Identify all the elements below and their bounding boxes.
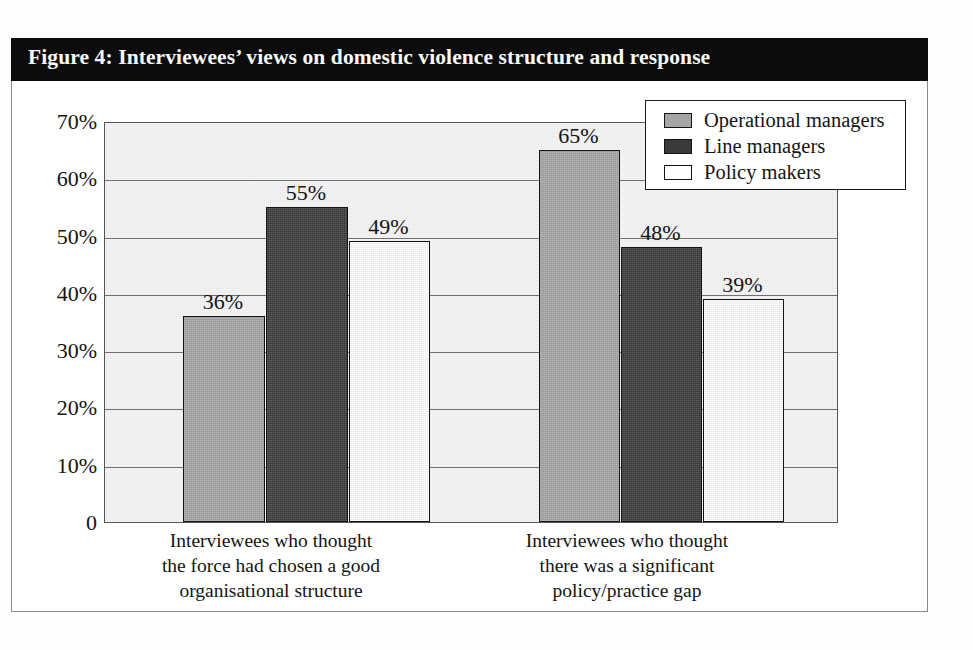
legend-item-label: Operational managers [704,110,884,131]
legend-item: Line managers [646,133,905,159]
y-axis-tick-label: 0 [19,512,97,534]
bar-value-label: 65% [526,125,631,147]
legend-swatch-icon [664,139,692,154]
legend-item-label: Line managers [704,136,825,157]
y-axis-tick-label: 10% [19,455,97,477]
y-axis: 70%60%50%40%30%20%10%0 [11,122,97,523]
bar-scan-texture [267,208,347,521]
chart-legend: Operational managersLine managersPolicy … [645,100,906,190]
x-axis-category-label-line: policy/practice gap [477,579,777,604]
legend-item: Operational managers [646,107,905,133]
bar [183,316,265,522]
bar-scan-texture [350,242,429,521]
bar-value-label: 39% [690,274,795,296]
x-axis-category-label-line: Interviewees who thought [477,529,777,554]
bar-value-label: 48% [608,222,713,244]
gridline [105,238,837,239]
legend-item: Policy makers [646,159,905,185]
y-axis-tick-label: 40% [19,283,97,305]
bar-value-label: 36% [170,291,276,313]
x-axis-category-label: Interviewees who thoughtthere was a sign… [477,529,777,604]
bar-scan-texture [704,300,783,521]
figure-title: Figure 4: Interviewees’ views on domesti… [28,45,710,70]
x-axis-category-label-line: organisational structure [121,579,421,604]
bar-value-label: 55% [253,182,359,204]
bar [349,241,430,522]
bar [539,150,620,522]
legend-swatch-icon [664,113,692,128]
bar [703,299,784,522]
figure-title-banner: Figure 4: Interviewees’ views on domesti… [11,38,928,81]
y-axis-tick-label: 50% [19,226,97,248]
bar-scan-texture [184,317,264,521]
y-axis-tick-label: 70% [19,111,97,133]
bar-scan-texture [540,151,619,521]
legend-swatch-icon [664,165,692,180]
y-axis-tick-label: 20% [19,397,97,419]
legend-item-label: Policy makers [704,162,821,183]
bar-value-label: 49% [336,216,441,238]
y-axis-tick-label: 60% [19,168,97,190]
y-axis-tick-label: 30% [19,340,97,362]
x-axis-category-label-line: the force had chosen a good [121,554,421,579]
x-axis-category-label-line: there was a significant [477,554,777,579]
x-axis-category-label-line: Interviewees who thought [121,529,421,554]
x-axis-category-label: Interviewees who thoughtthe force had ch… [121,529,421,604]
chart-region: 70%60%50%40%30%20%10%0 36%55%49%65%48%39… [11,81,928,612]
bar [266,207,348,522]
